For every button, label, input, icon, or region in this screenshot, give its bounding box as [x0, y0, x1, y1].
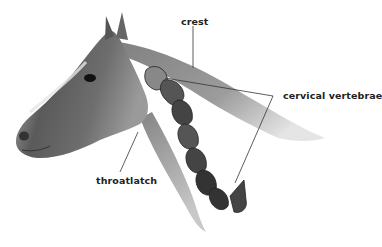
label-crest: crest: [181, 16, 208, 27]
right-ear: [116, 12, 128, 40]
left-ear: [105, 16, 114, 40]
label-cervical-vertebrae: cervical vertebrae: [283, 90, 382, 101]
throatlatch-leader-line: [120, 132, 138, 172]
nostril: [19, 132, 29, 141]
label-throatlatch: throatlatch: [96, 175, 157, 186]
eye: [84, 74, 96, 82]
